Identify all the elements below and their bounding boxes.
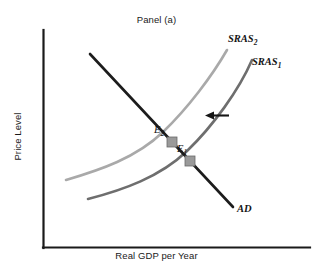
equilibrium-marker-e2	[167, 137, 177, 147]
e2-label-subscript: 2	[160, 129, 164, 138]
x-axis-label: Real GDP per Year	[0, 250, 313, 261]
shift-arrow-head	[205, 112, 214, 120]
sras1-label-text: SRAS	[252, 56, 278, 67]
y-axis-label: Price Level	[12, 87, 23, 187]
ad-curve-label: AD	[237, 203, 252, 214]
equilibrium-marker-e1	[185, 156, 195, 166]
sras2-label-subscript: 2	[254, 38, 258, 47]
economics-figure-panel-a: Panel (a) Price Level Real GDP per Year …	[0, 0, 313, 270]
equilibrium-label-e2: E2	[154, 124, 164, 138]
sras1-curve	[88, 60, 252, 199]
sras1-curve-label: SRAS1	[252, 56, 281, 70]
equilibrium-label-e1: E1	[177, 143, 187, 157]
sras2-label-text: SRAS	[228, 33, 254, 44]
sras2-curve-label: SRAS2	[228, 33, 257, 47]
panel-title: Panel (a)	[0, 14, 313, 25]
e1-label-subscript: 1	[183, 148, 187, 157]
sras1-label-subscript: 1	[278, 61, 282, 70]
